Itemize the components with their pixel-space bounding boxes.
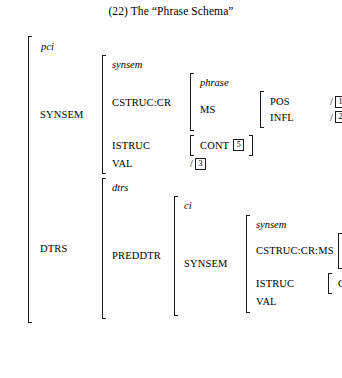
attr-val: VAL (256, 294, 328, 309)
bracket-left-phrase (190, 73, 195, 131)
avm-phrase: phrase MS POS (190, 73, 342, 131)
row-val: VAL / 3 (112, 156, 342, 171)
value-infl: / 2 (330, 110, 342, 125)
bracket-left-dtrs (102, 178, 107, 318)
bracket-left-istruc (190, 135, 195, 156)
value-val: / 3 (190, 156, 206, 171)
path-marker-icon: / (330, 110, 333, 125)
bracket-left-synsem (102, 55, 107, 174)
caption-text: (22) The “Phrase Schema” (108, 5, 233, 17)
row-infl: INFL / 2 (270, 110, 342, 125)
attr-pos: POS (270, 94, 330, 109)
avm-diagram: pci SYNSEM synsem CSTRUC:CR (28, 36, 342, 327)
avm-ci: ci SYNSEM synsem (174, 196, 342, 315)
avm-ms: POS / 1 INFL (260, 91, 342, 127)
tag-box: 2 (335, 111, 342, 123)
bracket-left-inner-synsem (246, 215, 251, 313)
row-inner-synsem: SYNSEM synsem CSTRUC:CR:MS (184, 215, 342, 313)
row-preddtr: PREDDTR ci SYNSEM (112, 196, 342, 315)
attr-infl: INFL (270, 110, 330, 125)
row-inner-cont: CONT 5 (338, 276, 342, 291)
attr-cont: CONT (200, 138, 229, 153)
tag-box: 1 (335, 96, 342, 108)
row-cstruc-cr-ms: CSTRUC:CR:MS POS (256, 233, 342, 269)
bracket-left-inner-istruc (328, 273, 333, 294)
attr-dtrs: DTRS (40, 243, 102, 254)
bracket-left-ms (260, 91, 265, 127)
attr-istruc: ISTRUC (256, 278, 328, 289)
bracket-left-outer (28, 36, 33, 323)
bracket-right-istruc (248, 135, 253, 156)
row-istruc: ISTRUC CONT 5 (112, 135, 342, 156)
avm-inner-istruc: CONT 5 (328, 273, 342, 294)
attr-synsem: SYNSEM (40, 109, 102, 120)
bracket-left-ci (174, 196, 179, 315)
bracket-left-inner-ms (338, 233, 342, 269)
row-inner-val: VAL 3 (256, 294, 342, 309)
tag-box: 5 (233, 139, 244, 151)
attr-preddtr: PREDDTR (112, 250, 174, 261)
row-inner-istruc: ISTRUC CONT (256, 273, 342, 294)
row-cstruc-cr: CSTRUC:CR phrase MS (112, 73, 342, 131)
attr-inner-synsem: SYNSEM (184, 258, 246, 269)
value-pos: / 1 (330, 94, 342, 109)
row-dtrs: DTRS dtrs PREDDTR ci (40, 178, 342, 318)
avm-inner-ms: POS 1 (338, 233, 342, 269)
row-cont: CONT 5 (200, 138, 244, 153)
type-label-dtrs: dtrs (112, 181, 342, 196)
avm-inner-synsem: synsem CSTRUC:CR:MS (246, 215, 342, 313)
path-marker-icon: / (330, 94, 333, 109)
attr-cstruc-cr-ms: CSTRUC:CR:MS (256, 245, 334, 256)
type-label-phrase: phrase (200, 76, 342, 91)
row-synsem: SYNSEM synsem CSTRUC:CR phrase (40, 55, 342, 174)
value-val: 3 (328, 296, 342, 308)
type-label-ci: ci (184, 199, 342, 214)
attr-val: VAL (112, 156, 190, 171)
row-ms: MS POS / (200, 91, 342, 127)
attr-ms: MS (200, 104, 260, 115)
avm-root-pci: pci SYNSEM synsem CSTRUC:CR (28, 36, 342, 323)
tag-box: 3 (195, 158, 206, 170)
figure-caption: (22) The “Phrase Schema” (0, 5, 342, 17)
attr-cont: CONT (338, 276, 342, 291)
avm-istruc: CONT 5 (190, 135, 253, 156)
row-pos: POS / 1 (270, 94, 342, 109)
value-cont: 5 (233, 139, 244, 151)
attr-istruc: ISTRUC (112, 140, 190, 151)
path-marker-icon: / (190, 156, 193, 171)
type-label-inner-synsem: synsem (256, 218, 342, 233)
avm-synsem: synsem CSTRUC:CR phrase MS (102, 55, 342, 174)
type-label-pci: pci (40, 40, 342, 55)
type-label-synsem: synsem (112, 58, 342, 73)
attr-cstruc-cr: CSTRUC:CR (112, 97, 190, 108)
avm-dtrs: dtrs PREDDTR ci SYNSEM (102, 178, 342, 318)
